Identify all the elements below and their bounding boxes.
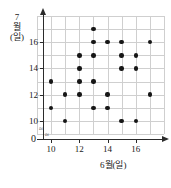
data-point: [91, 79, 95, 83]
x-axis-tick-label: 14: [97, 144, 119, 154]
y-axis-tick: [40, 68, 44, 69]
gridline-vertical: [79, 16, 80, 134]
data-point: [119, 119, 123, 123]
gridline-horizontal: [37, 121, 164, 122]
data-point: [91, 53, 95, 57]
x-axis-title: 6월(일): [100, 160, 127, 170]
x-axis-tick: [51, 139, 52, 143]
y-axis-title: 7 월 (일): [2, 12, 32, 42]
gridline-vertical: [122, 16, 123, 134]
data-point: [119, 66, 123, 70]
y-axis-tick-label: 10: [12, 116, 38, 126]
scatter-plot-figure: ≈ ≈ 1012141610121416 0 7 월 (일) 6월(일): [0, 0, 171, 188]
x-axis-tick-label: 10: [40, 144, 62, 154]
y-axis-tick-label: 14: [12, 63, 38, 73]
y-axis-arrow-icon: [40, 8, 46, 15]
y-axis-break-icon: ≈: [39, 126, 43, 133]
data-point: [134, 53, 138, 57]
data-point: [148, 92, 152, 96]
y-axis-title-line-1: 7: [2, 12, 32, 22]
data-point: [119, 53, 123, 57]
y-axis-tick: [40, 42, 44, 43]
y-axis-tick: [40, 121, 44, 122]
y-axis-title-line-3: (일): [2, 32, 32, 42]
y-axis-title-line-2: 월: [2, 22, 32, 32]
gridline-horizontal: [37, 29, 164, 30]
data-point: [91, 106, 95, 110]
gridline-horizontal: [37, 55, 164, 56]
x-axis-break-icon: ≈: [45, 132, 49, 139]
data-point: [49, 79, 53, 83]
x-axis-tick: [79, 139, 80, 143]
x-axis-tick: [108, 139, 109, 143]
x-axis-tick-label: 16: [125, 144, 147, 154]
data-point: [105, 92, 109, 96]
y-axis-tick: [40, 95, 44, 96]
gridline-horizontal: [37, 42, 164, 43]
data-point: [77, 79, 81, 83]
gridline-vertical: [136, 16, 137, 134]
data-point: [134, 119, 138, 123]
gridline-vertical: [164, 16, 165, 134]
y-axis-tick-label: 12: [12, 90, 38, 100]
gridline-vertical: [150, 16, 151, 134]
data-point: [91, 27, 95, 31]
data-point: [77, 92, 81, 96]
data-point: [77, 66, 81, 70]
gridline-vertical: [93, 16, 94, 134]
data-point: [105, 106, 109, 110]
gridline-horizontal: [37, 82, 164, 83]
x-axis-tick: [136, 139, 137, 143]
x-axis-tick-label: 12: [68, 144, 90, 154]
x-axis-arrow-icon: [162, 136, 169, 142]
data-point: [77, 53, 81, 57]
gridline-horizontal: [37, 95, 164, 96]
gridline-vertical: [65, 16, 66, 134]
data-point: [134, 66, 138, 70]
gridline-horizontal: [37, 16, 164, 17]
plot-area: [37, 16, 164, 134]
origin-label: 0: [22, 133, 36, 144]
gridline-horizontal: [37, 108, 164, 109]
gridline-horizontal: [37, 68, 164, 69]
gridline-vertical: [108, 16, 109, 134]
gridline-vertical: [51, 16, 52, 134]
gridline-horizontal: [37, 134, 164, 135]
x-axis-line: [37, 139, 163, 140]
